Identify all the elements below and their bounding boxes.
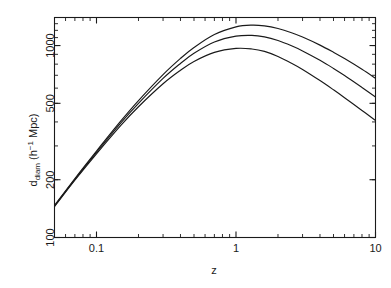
figure-background bbox=[0, 0, 391, 288]
figure-panel: 0.1110 1002005001000 z ddiam (h−1 Mpc) bbox=[0, 0, 391, 288]
y-axis-title-subscript: diam bbox=[33, 163, 42, 181]
y-tick-label: 500 bbox=[44, 94, 56, 112]
y-tick-label: 1000 bbox=[44, 33, 56, 57]
y-axis-units-suffix: Mpc) bbox=[27, 114, 39, 142]
x-axis-title: z bbox=[211, 264, 217, 276]
y-tick-label: 200 bbox=[44, 171, 56, 189]
x-tick-label: 0.1 bbox=[89, 242, 104, 254]
y-tick-label: 100 bbox=[44, 228, 56, 246]
x-tick-label: 10 bbox=[369, 242, 381, 254]
angular-diameter-distance-plot: 0.1110 1002005001000 z ddiam (h−1 Mpc) bbox=[0, 0, 391, 288]
x-tick-label: 1 bbox=[233, 242, 239, 254]
y-axis-units-prefix: (h bbox=[27, 150, 39, 160]
